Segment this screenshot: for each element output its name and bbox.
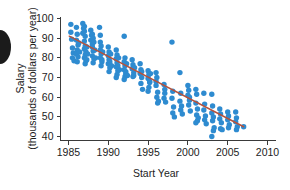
data-point — [177, 70, 182, 75]
data-point — [210, 118, 215, 123]
data-point — [109, 63, 114, 68]
data-point — [193, 87, 198, 92]
x-tick-label: 2005 — [216, 146, 240, 158]
data-point — [163, 99, 168, 104]
data-point — [155, 90, 160, 95]
data-point — [98, 63, 103, 68]
data-point — [186, 88, 191, 93]
data-point — [145, 89, 150, 94]
data-point — [106, 69, 111, 74]
y-tick-label: 70 — [42, 71, 54, 83]
data-point — [90, 60, 95, 65]
data-point — [201, 91, 206, 96]
data-point — [114, 47, 119, 52]
data-point — [74, 25, 79, 30]
data-point — [193, 120, 198, 125]
data-point — [93, 55, 98, 60]
data-point — [108, 51, 113, 56]
data-point — [99, 57, 104, 62]
data-point — [210, 103, 215, 108]
data-point — [68, 30, 73, 35]
data-point — [82, 24, 87, 29]
data-point — [140, 87, 145, 92]
x-tick-label: 1995 — [136, 146, 160, 158]
salary-vs-start-year-chart: 405060708090100198519901995200020052010S… — [0, 0, 290, 190]
data-point — [75, 54, 80, 59]
data-point — [85, 51, 90, 56]
data-point — [77, 49, 82, 54]
data-point — [70, 45, 75, 50]
data-points-group — [68, 21, 246, 140]
data-point — [234, 127, 239, 132]
y-tick-label: 100 — [36, 12, 54, 24]
data-point — [171, 104, 176, 109]
data-point — [155, 100, 160, 105]
data-point — [139, 75, 144, 80]
trend-line — [69, 36, 243, 127]
data-point — [148, 71, 153, 76]
data-point — [122, 33, 127, 38]
data-point — [186, 102, 191, 107]
data-point — [122, 77, 127, 82]
data-point — [180, 111, 185, 116]
y-tick-label: 50 — [42, 110, 54, 122]
data-point — [233, 109, 238, 114]
x-tick-label: 2000 — [176, 146, 200, 158]
data-point — [169, 95, 174, 100]
data-point — [194, 92, 199, 97]
data-point — [153, 70, 158, 75]
data-point — [195, 106, 200, 111]
data-point — [188, 108, 193, 113]
data-point — [219, 127, 224, 132]
y-axis-subtitle: (thousands of dollars per year) — [26, 7, 38, 149]
data-point — [75, 32, 80, 37]
data-point — [82, 29, 87, 34]
data-point — [131, 73, 136, 78]
scatter-plot-figure: 405060708090100198519901995200020052010S… — [0, 0, 290, 190]
regression-line — [69, 36, 243, 127]
data-point — [204, 121, 209, 126]
data-point — [116, 55, 121, 60]
data-point — [217, 106, 222, 111]
data-point — [219, 120, 224, 125]
data-point — [209, 134, 214, 139]
data-point — [98, 33, 103, 38]
x-tick-label: 1985 — [57, 146, 81, 158]
data-point — [114, 75, 119, 80]
data-point — [75, 59, 80, 64]
x-tick-label: 2010 — [256, 146, 280, 158]
y-tick-label: 40 — [42, 130, 54, 142]
y-tick-label: 80 — [42, 51, 54, 63]
x-axis-title: Start Year — [133, 167, 180, 179]
data-point — [177, 98, 182, 103]
data-point — [201, 107, 206, 112]
data-point — [137, 61, 142, 66]
data-point — [97, 25, 102, 30]
y-axis-title: Salary — [14, 63, 26, 94]
y-tick-label: 90 — [42, 32, 54, 44]
y-tick-label: 60 — [42, 91, 54, 103]
data-point — [82, 33, 87, 38]
data-point — [185, 83, 190, 88]
data-point — [226, 125, 231, 130]
data-point — [172, 114, 177, 119]
data-point — [106, 44, 111, 49]
data-point — [129, 57, 134, 62]
data-point — [209, 92, 214, 97]
data-point — [169, 39, 174, 44]
data-point — [91, 39, 96, 44]
data-point — [211, 128, 216, 133]
data-point — [138, 81, 143, 86]
x-tick-label: 1990 — [97, 146, 121, 158]
data-point — [117, 67, 122, 72]
data-point — [84, 57, 89, 62]
data-point — [68, 22, 73, 27]
